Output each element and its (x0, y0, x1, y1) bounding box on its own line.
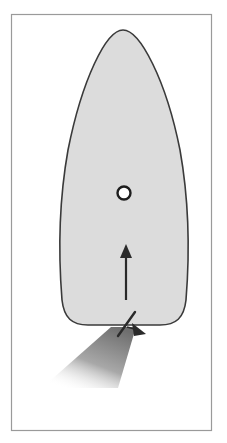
pivot-point-icon (118, 187, 131, 200)
boat-diagram (0, 0, 227, 443)
